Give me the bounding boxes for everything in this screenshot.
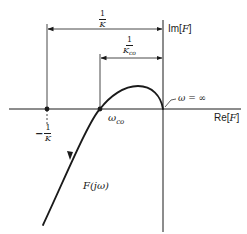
omega-symbol: ω [108, 112, 116, 123]
label-minus-1-over-k: − 1 K [35, 124, 51, 143]
label-1-over-kco-denominator: Kco [123, 46, 136, 56]
omega-sub: co [116, 118, 124, 126]
leader-line-omega-inf [165, 99, 176, 107]
imag-suffix: ] [189, 23, 192, 34]
real-prefix: Re[ [214, 112, 230, 123]
point-omega-co [98, 107, 103, 112]
point-minus-1-over-k [45, 107, 50, 112]
minus-sign: − [35, 129, 43, 139]
real-axis-label: Re[F] [214, 113, 239, 123]
imag-axis-label: Im[F] [168, 24, 192, 34]
label-omega-infinity: ω = ∞ [178, 94, 206, 103]
nyquist-curve [43, 86, 163, 225]
label-1-over-k: 1 K [99, 10, 106, 29]
label-1-over-k-denominator: K [100, 20, 106, 29]
real-var: F [230, 112, 237, 123]
imag-var: F [182, 23, 189, 34]
curve-direction-arrow-icon [67, 151, 73, 160]
real-suffix: ] [237, 112, 240, 123]
kco-sub: co [129, 49, 136, 56]
imag-prefix: Im[ [168, 23, 182, 34]
label-1-over-kco-numerator: 1 [126, 36, 133, 46]
label-1-over-kco: 1 Kco [123, 36, 136, 56]
minus-frac-num: 1 [44, 124, 51, 134]
label-1-over-k-numerator: 1 [99, 10, 106, 20]
curve-label-f-jw: F(jω) [83, 181, 109, 191]
minus-frac-den: K [45, 134, 51, 143]
label-omega-co: ωco [108, 113, 124, 126]
minus-1-over-k-fraction: 1 K [44, 124, 51, 143]
